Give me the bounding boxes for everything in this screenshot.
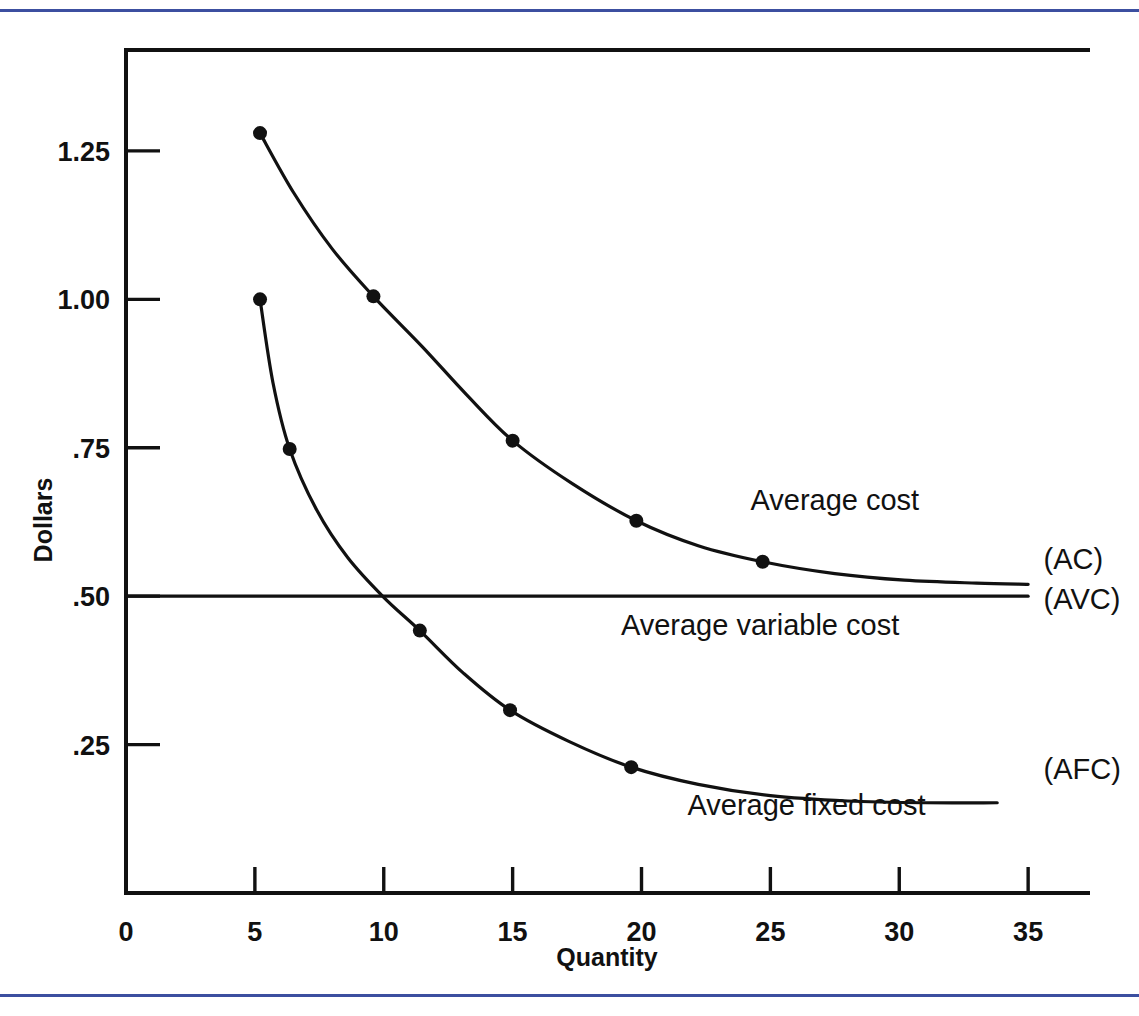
y-tick-label-1.25: 1.25 [57,137,110,167]
series-label-average-cost: Average cost [750,484,919,516]
x-tick-label-0: 0 [118,917,133,947]
data-point-average-fixed-cost-2 [413,624,427,638]
x-tick-label-5: 5 [247,917,262,947]
series-curves [126,133,1028,803]
y-axis-title: Dollars [29,478,57,563]
x-tick-label-25: 25 [755,917,785,947]
data-point-average-fixed-cost-1 [283,442,297,456]
data-point-average-cost-0 [253,126,267,140]
plot-frame [126,50,1090,893]
data-point-average-fixed-cost-4 [624,760,638,774]
data-point-average-cost-4 [756,555,770,569]
y-axis-ticks [126,151,160,745]
y-tick-label-1.00: 1.00 [57,285,110,315]
x-tick-label-10: 10 [369,917,399,947]
y-tick-label-.50: .50 [72,582,110,612]
x-axis-ticks [255,867,1028,893]
series-label-average-variable-cost: Average variable cost [621,609,899,641]
data-point-average-fixed-cost-0 [253,292,267,306]
cost-curves-chart: .25.50.751.001.25 05101520253035 Average… [0,0,1139,1016]
series-data-point-markers [253,126,770,774]
x-tick-label-30: 30 [884,917,914,947]
figure-page: .25.50.751.001.25 05101520253035 Average… [0,0,1139,1016]
x-tick-label-15: 15 [498,917,528,947]
data-point-average-fixed-cost-3 [503,703,517,717]
y-axis-tick-labels: .25.50.751.001.25 [57,137,110,761]
curve-average-cost [260,133,1028,584]
data-point-average-cost-3 [629,514,643,528]
data-point-average-cost-1 [366,289,380,303]
x-axis-title: Quantity [556,943,657,971]
data-point-average-cost-2 [506,434,520,448]
y-tick-label-.25: .25 [72,731,110,761]
series-abbr-average-variable-cost: (AVC) [1044,583,1121,615]
chart-svg: .25.50.751.001.25 05101520253035 Average… [0,0,1139,1016]
x-tick-label-35: 35 [1013,917,1043,947]
series-inline-labels: Average cost(AC)Average variable cost(AV… [621,484,1121,821]
series-abbr-average-fixed-cost: (AFC) [1044,753,1121,785]
series-abbr-average-cost: (AC) [1044,543,1104,575]
y-tick-label-.75: .75 [72,434,110,464]
series-label-average-fixed-cost: Average fixed cost [687,789,925,821]
curve-average-fixed-cost [260,299,997,803]
